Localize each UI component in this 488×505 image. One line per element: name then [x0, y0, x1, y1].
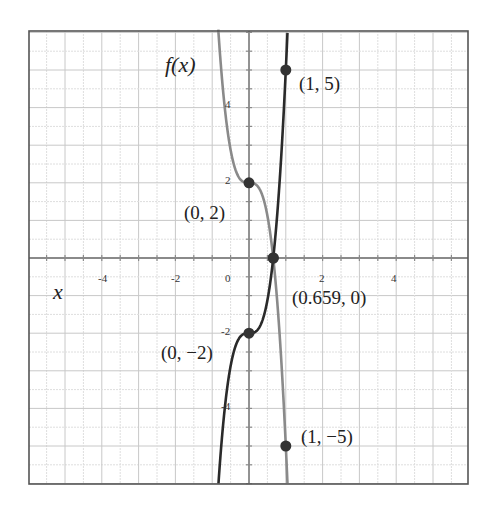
- x-tick-2: 2: [319, 272, 325, 284]
- y-tick-neg2: -2: [221, 325, 230, 337]
- plot-area: [0, 0, 488, 505]
- x-tick-neg2: -2: [171, 272, 180, 284]
- data-point: [268, 253, 279, 264]
- point-label-1-5: (1, 5): [299, 73, 340, 95]
- y-tick-neg4: -4: [221, 400, 230, 412]
- axes: [29, 31, 468, 484]
- data-point: [280, 441, 291, 452]
- y-tick-4: 4: [225, 98, 231, 110]
- point-label-1-neg5: (1, −5): [301, 426, 353, 448]
- x-axis-label: x: [53, 279, 63, 305]
- x-tick-0: 0: [225, 272, 231, 284]
- y-axis-label: f(x): [165, 52, 196, 78]
- data-point: [244, 177, 255, 188]
- point-label-0-2: (0, 2): [184, 202, 225, 224]
- y-tick-2: 2: [225, 174, 231, 186]
- data-point: [244, 328, 255, 339]
- point-label-0659-0: (0.659, 0): [292, 287, 366, 309]
- x-tick-neg4: -4: [98, 272, 107, 284]
- point-label-0-neg2: (0, −2): [161, 342, 213, 364]
- x-tick-4: 4: [391, 272, 397, 284]
- data-point: [280, 65, 291, 76]
